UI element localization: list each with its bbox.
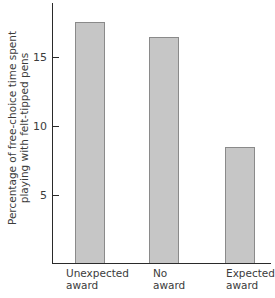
y-tick-5 — [52, 195, 59, 196]
x-label-unexpected-award: Unexpected award — [66, 267, 129, 291]
x-label-line: award — [226, 279, 275, 291]
x-label-line: Unexpected — [66, 267, 129, 279]
bar-unexpected-award — [75, 22, 105, 264]
y-axis — [52, 3, 53, 264]
x-label-line: award — [66, 279, 129, 291]
bar-expected-award — [225, 147, 255, 263]
x-label-line: Expected — [226, 267, 275, 279]
y-axis-label-line-2: playing with felt-tipped pens — [18, 13, 30, 243]
y-axis-label: Percentage of free-choice time spent pla… — [6, 13, 30, 243]
x-label-line: award — [153, 279, 185, 291]
y-tick-label-15: 15 — [33, 51, 47, 64]
bar-no-award — [149, 37, 179, 263]
x-label-expected-award: Expected award — [226, 267, 275, 291]
y-tick-label-5: 5 — [40, 189, 47, 202]
y-tick-15 — [52, 57, 59, 58]
y-tick-label-10: 10 — [33, 120, 47, 133]
x-label-line: No — [153, 267, 185, 279]
x-axis — [52, 263, 271, 264]
x-label-no-award: No award — [153, 267, 185, 291]
y-tick-10 — [52, 126, 59, 127]
y-axis-label-line-1: Percentage of free-choice time spent — [6, 13, 18, 243]
